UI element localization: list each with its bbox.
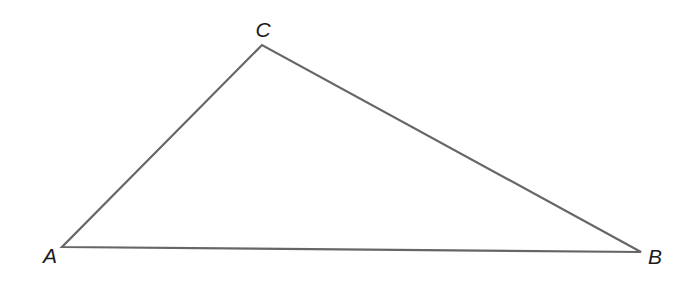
vertex-label-c: C <box>255 18 271 41</box>
vertex-label-b: B <box>648 245 662 268</box>
triangle-diagram: A B C <box>0 0 698 284</box>
triangle-abc <box>62 45 641 252</box>
vertex-label-a: A <box>41 244 57 267</box>
